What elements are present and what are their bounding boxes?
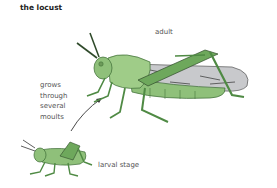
growth-arrow-icon <box>71 98 102 131</box>
diagram-illustration <box>0 0 277 188</box>
larval-locust-illustration <box>21 140 92 176</box>
adult-locust-illustration <box>77 33 248 122</box>
